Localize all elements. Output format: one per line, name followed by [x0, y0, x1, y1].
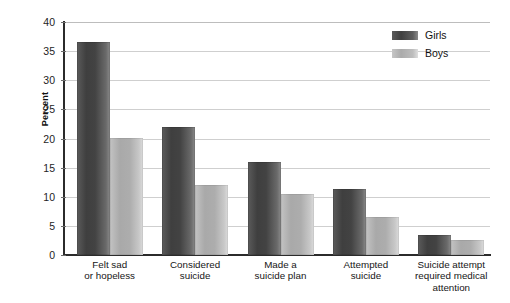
- legend-label-girls: Girls: [425, 30, 447, 41]
- bar-girls-3: [333, 189, 366, 255]
- bar-girls-2: [248, 162, 281, 255]
- legend-label-boys: Boys: [425, 48, 448, 59]
- y-tick-label: 5: [29, 221, 55, 231]
- bar-girls-0: [77, 42, 110, 255]
- x-axis-labels: Felt sador hopelessConsideredsuicideMade…: [63, 259, 490, 303]
- y-tick-label: 35: [29, 46, 55, 56]
- legend: Girls Boys: [392, 28, 488, 64]
- legend-swatch-girls-icon: [392, 31, 418, 40]
- y-tick-label: 10: [29, 192, 55, 202]
- x-axis-label-line: Suicide attempt: [396, 259, 507, 270]
- y-tick-label: 0: [29, 250, 55, 260]
- bar-boys-0: [110, 138, 143, 255]
- y-tick-label: 20: [29, 134, 55, 144]
- y-tick-mark: [61, 255, 66, 256]
- bar-girls-4: [418, 235, 451, 255]
- bar-boys-3: [366, 217, 399, 255]
- x-axis-label-line: attention: [396, 282, 507, 293]
- legend-swatch-boys-icon: [392, 49, 418, 58]
- y-tick-label: 40: [29, 17, 55, 27]
- legend-item-girls: Girls: [392, 28, 488, 42]
- y-tick-label: 25: [29, 104, 55, 114]
- x-axis-label-line: required medical: [396, 270, 507, 281]
- y-tick-label: 15: [29, 163, 55, 173]
- legend-item-boys: Boys: [392, 46, 488, 60]
- bar-boys-2: [281, 194, 314, 255]
- bar-boys-4: [451, 240, 484, 255]
- x-axis-label-4: Suicide attemptrequired medicalattention: [396, 259, 507, 293]
- bar-chart: Percent 0510152025303540 Felt sador hope…: [0, 0, 510, 303]
- bar-girls-1: [162, 127, 195, 255]
- y-tick-label: 30: [29, 75, 55, 85]
- bar-boys-1: [195, 185, 228, 255]
